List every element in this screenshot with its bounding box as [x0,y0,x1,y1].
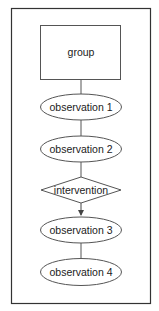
node-intervention-label: intervention [54,184,108,196]
node-intervention: intervention [41,177,121,203]
node-observation-1: observation 1 [41,94,122,120]
node-group-label: group [68,46,95,58]
node-observation-2-label: observation 2 [49,143,112,155]
node-observation-1-label: observation 1 [49,101,112,113]
node-observation-4: observation 4 [41,259,122,286]
diagram-canvas: group observation 1 observation 2 interv… [0,0,159,311]
node-observation-3-label: observation 3 [49,224,112,236]
node-observation-3: observation 3 [41,217,122,243]
node-group: group [41,26,121,80]
node-observation-4-label: observation 4 [49,266,112,278]
node-observation-2: observation 2 [41,136,122,162]
